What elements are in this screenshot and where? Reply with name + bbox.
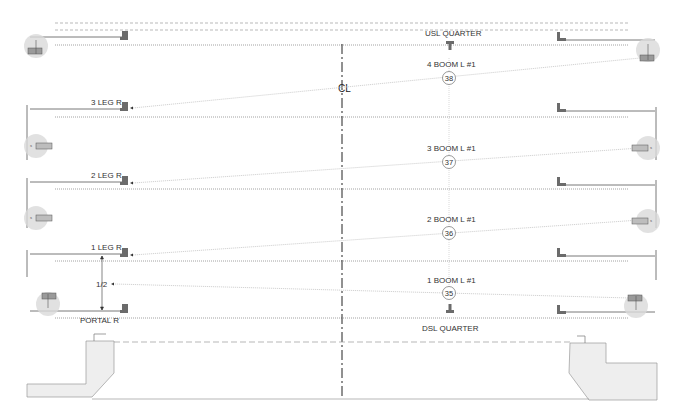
half-dimension-label: 1/2 (96, 280, 108, 289)
lighting-plot-diagram: CL (0, 0, 682, 418)
arrow-icon (130, 254, 133, 257)
clamp-icon (120, 304, 128, 313)
leg-label-2: 2 LEG R (91, 171, 122, 180)
unit-number-37: 37 (445, 158, 453, 167)
svg-text:s: s (650, 145, 652, 150)
unit-number-36: 36 (445, 229, 453, 238)
arrow-icon (130, 182, 133, 185)
boom-label-4: 4 BOOM L #1 (427, 60, 476, 69)
unit-number-circles (443, 72, 456, 300)
focus-arrows (111, 107, 133, 286)
beam-lines (115, 58, 640, 298)
fixture-ellipsoidal-icon (36, 292, 60, 316)
fixture-ellipsoidal-icon: s (24, 134, 52, 158)
clamp-icon (557, 305, 566, 314)
unit-number-35: 35 (445, 289, 453, 298)
upstage-dashed-lines (55, 23, 628, 30)
right-clamps (557, 32, 566, 314)
centerline: CL (338, 44, 351, 398)
svg-text:s: s (650, 218, 652, 223)
boom-label-1: 1 BOOM L #1 (427, 276, 476, 285)
unit-number-38: 38 (445, 74, 453, 83)
clamp-icon (557, 177, 566, 186)
centerline-label: CL (338, 83, 351, 94)
leg-label-3: 3 LEG R (91, 98, 122, 107)
arrow-icon (111, 283, 114, 286)
dsl-quarter-clamp-icon (446, 304, 454, 313)
fixture-ellipsoidal-icon (636, 38, 660, 62)
clamp-icon (557, 248, 566, 257)
left-fixtures: s s (24, 34, 60, 316)
left-proscenium-wall (27, 341, 114, 397)
clamp-icon (120, 31, 128, 40)
fixture-ellipsoidal-icon: s (24, 206, 52, 230)
clamp-icon (557, 103, 566, 112)
fixture-ellipsoidal-icon: s (632, 136, 660, 160)
clamp-icon (557, 32, 566, 41)
right-leg-pipes (562, 40, 656, 312)
fixture-ellipsoidal-icon (624, 294, 648, 318)
right-proscenium-wall (569, 343, 657, 400)
boom-label-3: 3 BOOM L #1 (427, 144, 476, 153)
arrow-icon (130, 107, 133, 110)
leg-label-1: 1 LEG R (91, 243, 122, 252)
usl-quarter-label: USL QUARTER (425, 29, 482, 38)
fixture-ellipsoidal-icon: s (632, 209, 660, 233)
fixture-ellipsoidal-icon (24, 34, 48, 58)
svg-text:s: s (30, 143, 32, 148)
portal-r-label: PORTAL R (80, 316, 119, 325)
dsl-quarter-label: DSL QUARTER (422, 324, 479, 333)
svg-text:s: s (30, 215, 32, 220)
right-fixtures: s s (624, 38, 660, 318)
boom-label-2: 2 BOOM L #1 (427, 215, 476, 224)
usl-quarter-clamp-icon (446, 41, 454, 50)
plot-canvas: CL (0, 0, 682, 418)
